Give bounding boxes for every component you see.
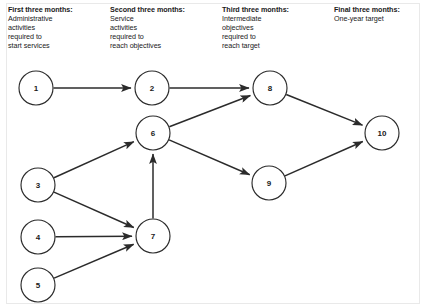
edge-3-to-6 <box>54 142 134 178</box>
node-6[interactable]: 6 <box>136 116 170 150</box>
node-circle-8[interactable] <box>253 71 287 105</box>
node-5[interactable]: 5 <box>21 268 55 302</box>
node-4[interactable]: 4 <box>21 220 55 254</box>
edge-4-to-7 <box>56 236 133 237</box>
edges-layer <box>54 88 363 278</box>
node-circle-9[interactable] <box>252 166 286 200</box>
node-circle-10[interactable] <box>365 116 399 150</box>
edge-9-to-10 <box>285 142 363 176</box>
node-circle-1[interactable] <box>19 71 53 105</box>
node-9[interactable]: 9 <box>252 166 286 200</box>
node-10[interactable]: 10 <box>365 116 399 150</box>
node-circle-3[interactable] <box>21 168 55 202</box>
node-7[interactable]: 7 <box>136 219 170 253</box>
node-3[interactable]: 3 <box>21 168 55 202</box>
nodes-layer: 12861093475 <box>19 71 399 302</box>
edge-8-to-10 <box>286 95 362 126</box>
node-2[interactable]: 2 <box>135 71 169 105</box>
edge-3-to-7 <box>54 192 134 227</box>
node-circle-7[interactable] <box>136 219 170 253</box>
node-circle-5[interactable] <box>21 268 55 302</box>
node-1[interactable]: 1 <box>19 71 53 105</box>
graph-canvas: 12861093475 <box>0 0 426 308</box>
edge-6-to-8 <box>169 96 250 127</box>
node-8[interactable]: 8 <box>253 71 287 105</box>
edge-5-to-7 <box>54 244 134 278</box>
node-circle-2[interactable] <box>135 71 169 105</box>
project-network-diagram: First three months: Administrative activ… <box>0 0 426 308</box>
node-circle-6[interactable] <box>136 116 170 150</box>
node-circle-4[interactable] <box>21 220 55 254</box>
edge-6-to-9 <box>169 140 250 175</box>
